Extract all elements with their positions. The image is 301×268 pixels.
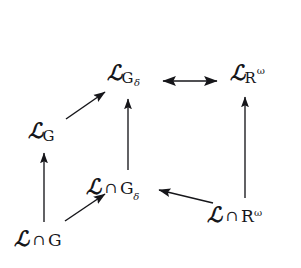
set-g: G (48, 230, 62, 250)
superscript-omega: ω (254, 207, 262, 218)
arrow-lg-to-lgdelta (66, 92, 105, 119)
node-l-romega: ℒRω (230, 62, 265, 83)
subscript-r: R (245, 69, 256, 87)
node-l-g: ℒG (28, 120, 55, 141)
script-l-glyph: ℒ (207, 202, 223, 227)
intersection-operator: ∩ (102, 179, 121, 197)
subscript-g: G (122, 69, 134, 87)
node-l-gdelta: ℒGδ (107, 62, 141, 83)
intersection-operator: ∩ (30, 231, 49, 249)
node-l-cap-gdelta: ℒ∩Gδ (86, 176, 140, 197)
arrow-lcapromega-to-lcapgdelta (159, 190, 213, 203)
subscript-delta: δ (133, 191, 139, 202)
subscript-delta: δ (134, 77, 140, 88)
commutative-diagram: ℒGδ ℒRω ℒG ℒ∩Gδ ℒ∩Rω ℒ∩G (0, 0, 301, 268)
intersection-operator: ∩ (223, 207, 242, 225)
set-r: R (241, 206, 254, 226)
node-l-cap-g: ℒ∩G (14, 228, 62, 249)
node-l-cap-romega: ℒ∩Rω (207, 204, 262, 225)
subscript-g: G (43, 127, 55, 145)
script-l-glyph: ℒ (86, 174, 102, 199)
superscript-omega: ω (257, 65, 265, 76)
script-l-glyph: ℒ (107, 60, 123, 85)
set-g: G (120, 178, 134, 198)
script-l-glyph: ℒ (28, 118, 44, 143)
script-l-glyph: ℒ (230, 60, 246, 85)
script-l-glyph: ℒ (14, 226, 30, 251)
